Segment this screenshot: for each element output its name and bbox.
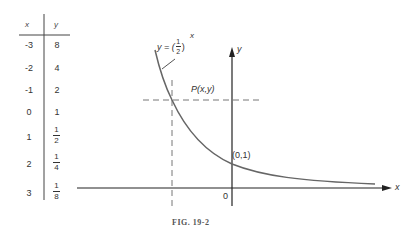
table-cell-y-fraction: 1 8 <box>53 182 60 201</box>
curve-label-suffix: ) <box>182 42 185 52</box>
intercept-label: (0,1) <box>232 150 251 160</box>
table-cell-y: 2 <box>47 85 67 95</box>
figure-caption: FIG. 19-2 <box>172 218 209 227</box>
table-cell-y: 4 <box>47 63 67 73</box>
origin-label: 0 <box>223 191 228 201</box>
table-cell-x: 0 <box>19 107 39 117</box>
fraction-denominator: 2 <box>176 48 180 55</box>
table-header-x: x <box>25 20 29 29</box>
y-axis-arrow-icon <box>229 47 235 57</box>
x-axis-arrow-icon <box>382 185 392 191</box>
graph-canvas <box>0 0 410 236</box>
table-cell-x: 2 <box>19 159 39 169</box>
fraction-denominator: 4 <box>54 164 58 172</box>
exponential-curve <box>155 50 375 184</box>
table-cell-x: -3 <box>19 40 39 50</box>
curve-label-leader <box>162 59 175 69</box>
y-axis-label: y <box>237 44 242 54</box>
fraction-numerator: 1 <box>54 153 58 161</box>
fraction-numerator: 1 <box>176 38 180 45</box>
table-cell-x: 3 <box>19 188 39 198</box>
fraction-bar <box>176 46 181 47</box>
curve-label-prefix: y = ( <box>157 42 175 52</box>
fraction-numerator: 1 <box>54 126 58 134</box>
table-cell-x: 1 <box>19 132 39 142</box>
fraction-denominator: 2 <box>54 137 58 145</box>
table-cell-y: 1 <box>47 107 67 117</box>
fraction-denominator: 8 <box>54 193 58 201</box>
fraction-numerator: 1 <box>54 182 58 190</box>
point-p-label: P(x,y) <box>191 84 215 94</box>
x-axis-label: x <box>395 182 400 192</box>
curve-label-fraction: 1 2 <box>176 38 181 55</box>
table-cell-x: -2 <box>19 63 39 73</box>
table-cell-x: -1 <box>19 85 39 95</box>
table-header-y: y <box>54 20 58 29</box>
curve-label-exponent: x <box>190 31 194 40</box>
table-cell-y-fraction: 1 4 <box>53 153 60 172</box>
curve-equation-label: y = ( 1 2 ) <box>157 38 185 55</box>
table-cell-y: 8 <box>47 40 67 50</box>
table-cell-y-fraction: 1 2 <box>53 126 60 145</box>
